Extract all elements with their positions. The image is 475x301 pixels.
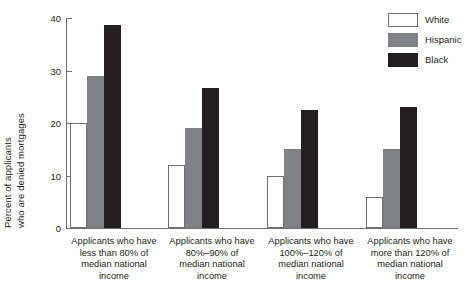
bar: [383, 149, 400, 228]
legend-label: Black: [425, 54, 448, 65]
category-label-line: income: [351, 271, 469, 283]
bar: [202, 88, 219, 228]
bar: [168, 165, 185, 228]
y-axis-tick-label: 20: [50, 118, 61, 129]
category-label-line: Applicants who have: [351, 236, 469, 248]
y-axis-title: Percent of applicants who are denied mor…: [0, 18, 40, 228]
legend-swatch-black: [388, 53, 418, 67]
legend-label: Hispanic: [425, 34, 461, 45]
category-label-line: median national: [351, 259, 469, 271]
y-axis-tick-label: 30: [50, 65, 61, 76]
chart-legend: WhiteHispanicBlack: [388, 10, 472, 70]
y-axis-title-line-1: Percent of applicants: [2, 137, 13, 228]
legend-swatch-hispanic: [388, 33, 418, 47]
bar: [267, 176, 284, 229]
bar-group: [267, 18, 318, 228]
bar: [366, 197, 383, 229]
legend-item: White: [388, 10, 472, 29]
bar: [104, 25, 121, 228]
legend-swatch-white: [388, 13, 418, 27]
legend-item: Hispanic: [388, 30, 472, 49]
bar: [87, 76, 104, 228]
y-axis-tick-label: 10: [50, 170, 61, 181]
y-axis-tick-label: 40: [50, 13, 61, 24]
y-axis-tick: [66, 228, 72, 229]
bar-chart: Percent of applicants who are denied mor…: [0, 0, 475, 301]
bar: [70, 123, 87, 228]
legend-item: Black: [388, 50, 472, 69]
x-axis-line: [66, 228, 458, 229]
legend-label: White: [425, 14, 449, 25]
bar-group: [70, 18, 121, 228]
y-axis-tick-label: 0: [56, 223, 61, 234]
bar: [301, 110, 318, 228]
bar: [400, 107, 417, 228]
y-axis-title-line-2: who are denied mortgages: [15, 113, 26, 228]
x-axis-category-label: Applicants who havemore than 120% ofmedi…: [351, 236, 469, 282]
bar: [185, 128, 202, 228]
bar: [284, 149, 301, 228]
bar-group: [168, 18, 219, 228]
category-label-line: more than 120% of: [351, 248, 469, 260]
